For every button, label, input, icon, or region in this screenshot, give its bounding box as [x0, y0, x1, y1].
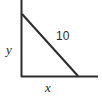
triangle-drawing — [0, 0, 102, 104]
hypotenuse-line — [22, 14, 78, 76]
vertical-leg-label: y — [6, 43, 12, 56]
right-triangle-figure: y x 10 — [0, 0, 102, 104]
horizontal-leg-label: x — [45, 81, 51, 94]
hypotenuse-length-label: 10 — [56, 30, 69, 42]
